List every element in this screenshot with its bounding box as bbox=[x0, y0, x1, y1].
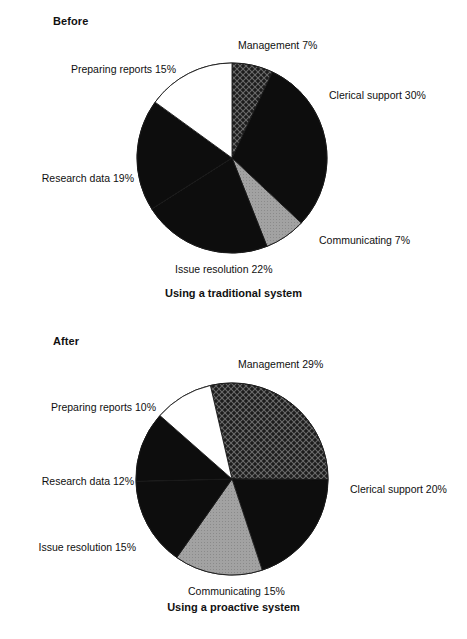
slice-label-communicating-before: Communicating 7% bbox=[319, 234, 410, 246]
slice-label-research-before: Research data 19% bbox=[30, 172, 134, 184]
chart-panel-after: After Management 29% Clerical support 20… bbox=[0, 320, 467, 639]
slice-label-clerical-before: Clerical support 30% bbox=[329, 89, 426, 101]
slice-label-research-after: Research data 12% bbox=[16, 475, 134, 487]
slice-label-clerical-after: Clerical support 20% bbox=[350, 483, 447, 495]
slice-label-reports-before: Preparing reports 15% bbox=[58, 63, 176, 75]
slice-label-issue-before: Issue resolution 22% bbox=[175, 263, 272, 275]
slice-label-communicating-after: Communicating 15% bbox=[188, 585, 285, 597]
chart-caption-after: Using a proactive system bbox=[0, 601, 467, 613]
slice-label-reports-after: Preparing reports 10% bbox=[22, 401, 156, 413]
slice-label-management-before: Management 7% bbox=[238, 39, 317, 51]
chart-panel-before: Before Management 7% Clerical support 30… bbox=[0, 0, 467, 320]
slice-label-management-after: Management 29% bbox=[238, 358, 323, 370]
chart-caption-before: Using a traditional system bbox=[0, 287, 467, 299]
slice-label-issue-after: Issue resolution 15% bbox=[18, 541, 136, 553]
